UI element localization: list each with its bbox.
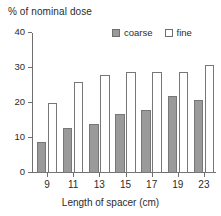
x-tick-label: 23 [192, 179, 216, 191]
y-tick-label: 0 [20, 166, 25, 177]
y-tick-0: 0 [28, 172, 32, 173]
x-tick-15 [126, 173, 127, 177]
bar-group-container [33, 33, 216, 173]
bar-fine-11 [74, 82, 84, 173]
x-tick-label: 15 [114, 179, 138, 191]
bar-coarse-11 [63, 128, 73, 174]
x-tick-23 [204, 173, 205, 177]
bar-chart: % of nominal dose coarsefine 010203040 9… [0, 0, 221, 216]
y-tick-label: 20 [14, 96, 25, 107]
x-tick-19 [178, 173, 179, 177]
x-tick-13 [99, 173, 100, 177]
x-tick-17 [152, 173, 153, 177]
x-tick-label: 11 [61, 179, 85, 191]
y-tick-label: 10 [14, 131, 25, 142]
bar-coarse-17 [141, 110, 151, 173]
y-tick-label: 30 [14, 61, 25, 72]
x-tick-label: 9 [35, 179, 59, 191]
y-tick-20: 20 [28, 102, 32, 103]
bar-coarse-23 [194, 100, 204, 174]
bar-coarse-19 [168, 96, 178, 173]
bar-fine-17 [152, 72, 162, 174]
chart-title: % of nominal dose [8, 6, 92, 17]
x-axis-title: Length of spacer (cm) [0, 197, 221, 208]
y-tick-10: 10 [28, 137, 32, 138]
bar-coarse-13 [89, 124, 99, 173]
bar-fine-23 [205, 65, 215, 174]
plot-area: 010203040 [32, 33, 216, 173]
bar-fine-9 [48, 103, 58, 173]
bar-fine-15 [126, 72, 136, 174]
y-tick-40: 40 [28, 32, 32, 33]
bar-coarse-9 [37, 142, 47, 174]
bar-fine-19 [179, 72, 189, 174]
y-tick-30: 30 [28, 67, 32, 68]
x-tick-9 [47, 173, 48, 177]
bar-coarse-15 [115, 114, 125, 174]
x-tick-label: 17 [140, 179, 164, 191]
x-axis-ticks: 9111315171923 [33, 173, 216, 195]
y-tick-label: 40 [14, 26, 25, 37]
x-tick-label: 13 [87, 179, 111, 191]
x-tick-11 [73, 173, 74, 177]
x-tick-label: 19 [166, 179, 190, 191]
bar-fine-13 [100, 75, 110, 173]
